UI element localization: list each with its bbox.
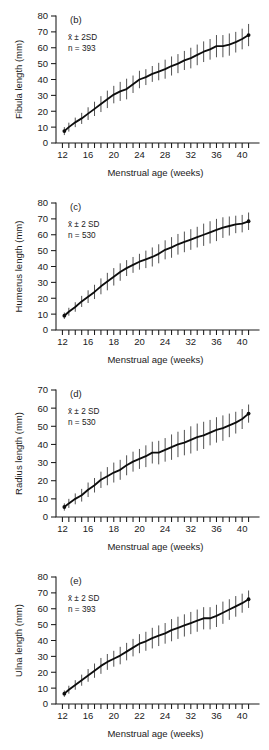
y-tick-label: 0 — [43, 137, 48, 148]
x-tick-label: 40 — [237, 710, 248, 721]
y-tick-label: 50 — [37, 619, 48, 630]
y-tick-label: 80 — [37, 197, 48, 208]
y-tick-label: 60 — [37, 229, 48, 240]
y-tick-label: 80 — [37, 571, 48, 582]
x-tick-label: 40 — [237, 149, 248, 160]
legend: x̄ ± 2 SDn = 393 — [68, 594, 99, 614]
y-tick-label: 10 — [37, 122, 48, 133]
x-tick-label: 24 — [160, 336, 171, 347]
y-tick-label: 0 — [43, 324, 48, 335]
legend-sample-size: n = 393 — [68, 605, 96, 614]
x-tick-label: 20 — [108, 710, 119, 721]
x-tick-label: 18 — [108, 336, 119, 347]
legend: x̄ ± 2SDn = 393 — [68, 33, 97, 53]
y-tick-label: 70 — [37, 213, 48, 224]
y-tick-label: 50 — [37, 245, 48, 256]
y-tick-label: 70 — [37, 587, 48, 598]
x-tick-label: 18 — [108, 523, 119, 534]
panel-letter: (c) — [70, 201, 81, 212]
y-tick-label: 50 — [37, 421, 48, 432]
x-tick-label: 28 — [160, 149, 171, 160]
y-tick-label: 70 — [37, 384, 48, 395]
y-axis-ticks: 01020304050607080 — [37, 197, 56, 335]
y-tick-label: 40 — [37, 439, 48, 450]
panel-letter: (e) — [70, 575, 82, 586]
y-tick-label: 20 — [37, 293, 48, 304]
x-axis-title: Menstrual age (weeks) — [107, 541, 203, 552]
y-tick-label: 80 — [37, 10, 48, 21]
x-tick-label: 16 — [83, 336, 94, 347]
x-tick-label: 32 — [186, 523, 197, 534]
x-axis-title: Menstrual age (weeks) — [107, 728, 203, 739]
x-tick-label: 20 — [134, 523, 145, 534]
y-tick-label: 0 — [43, 698, 48, 709]
y-tick-label: 10 — [37, 309, 48, 320]
x-axis-ticks: 1216182024323640 — [57, 517, 248, 534]
x-tick-label: 36 — [211, 336, 222, 347]
y-tick-label: 10 — [37, 493, 48, 504]
x-tick-label: 16 — [83, 523, 94, 534]
y-tick-label: 30 — [37, 277, 48, 288]
legend-sd-note: x̄ ± 2 SD — [68, 220, 99, 229]
x-tick-label: 20 — [134, 336, 145, 347]
x-axis-ticks: 1216182024323640 — [57, 330, 248, 347]
y-axis-ticks: 010203040506070 — [37, 384, 56, 522]
legend-sample-size: n = 393 — [68, 44, 96, 53]
y-tick-label: 30 — [37, 457, 48, 468]
x-tick-label: 24 — [134, 149, 145, 160]
y-tick-label: 40 — [37, 74, 48, 85]
y-axis-title: Humerus length (mm) — [13, 221, 24, 313]
y-tick-label: 60 — [37, 42, 48, 53]
y-axis-title: Ulna length (mm) — [13, 604, 24, 677]
x-tick-label: 36 — [211, 149, 222, 160]
y-tick-label: 40 — [37, 261, 48, 272]
x-tick-label: 40 — [237, 336, 248, 347]
x-tick-label: 32 — [186, 149, 197, 160]
legend: x̄ ± 2 SDn = 530 — [68, 220, 99, 240]
y-tick-label: 60 — [37, 403, 48, 414]
legend-sd-note: x̄ ± 2 SD — [68, 594, 99, 603]
panel-letter: (d) — [70, 388, 82, 399]
y-tick-label: 20 — [37, 106, 48, 117]
mean-curve — [64, 414, 248, 507]
legend-sd-note: x̄ ± 2 SD — [68, 407, 99, 416]
x-tick-label: 22 — [134, 710, 145, 721]
y-tick-label: 20 — [37, 475, 48, 486]
y-tick-label: 30 — [37, 90, 48, 101]
y-tick-label: 10 — [37, 683, 48, 694]
x-tick-label: 32 — [186, 336, 197, 347]
y-tick-label: 0 — [43, 511, 48, 522]
x-tick-label: 12 — [57, 710, 68, 721]
y-tick-label: 30 — [37, 651, 48, 662]
x-tick-label: 36 — [211, 710, 222, 721]
y-tick-label: 20 — [37, 667, 48, 678]
chart-panel-e: 010203040506070801216202224323640(e)x̄ ±… — [0, 561, 269, 748]
y-tick-label: 60 — [37, 603, 48, 614]
x-tick-label: 12 — [57, 336, 68, 347]
x-tick-label: 32 — [186, 710, 197, 721]
x-axis-title: Menstrual age (weeks) — [107, 354, 203, 365]
chart-panel-b: 010203040506070801216202428323640(b)x̄ ±… — [0, 0, 269, 187]
x-tick-label: 16 — [83, 149, 94, 160]
x-tick-label: 20 — [108, 149, 119, 160]
y-tick-label: 50 — [37, 58, 48, 69]
y-tick-label: 70 — [37, 26, 48, 37]
y-tick-label: 40 — [37, 635, 48, 646]
y-axis-ticks: 01020304050607080 — [37, 571, 56, 709]
x-tick-label: 12 — [57, 523, 68, 534]
legend-sd-note: x̄ ± 2SD — [68, 33, 97, 42]
legend: x̄ ± 2 SDn = 530 — [68, 407, 99, 427]
y-axis-ticks: 01020304050607080 — [37, 10, 56, 148]
x-tick-label: 40 — [237, 523, 248, 534]
y-axis-title: Fibula length (mm) — [13, 40, 24, 119]
x-axis-ticks: 1216202224323640 — [57, 704, 248, 721]
legend-sample-size: n = 530 — [68, 418, 96, 427]
x-tick-label: 36 — [211, 523, 222, 534]
x-axis-title: Menstrual age (weeks) — [107, 167, 203, 178]
x-tick-label: 12 — [57, 149, 68, 160]
x-axis-ticks: 1216202428323640 — [57, 143, 248, 160]
growth-charts-figure: 010203040506070801216202428323640(b)x̄ ±… — [0, 0, 269, 750]
x-tick-label: 16 — [83, 710, 94, 721]
x-tick-label: 24 — [160, 710, 171, 721]
x-tick-label: 24 — [160, 523, 171, 534]
